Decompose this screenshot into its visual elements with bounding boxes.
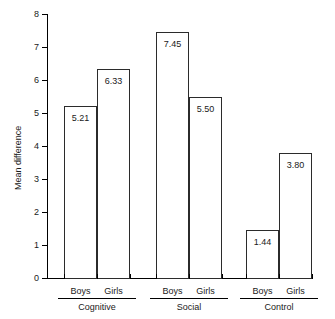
- group-label-cognitive: Cognitive: [58, 303, 136, 312]
- y-tick-8: [42, 14, 47, 15]
- y-tick-label-4: 4: [25, 142, 39, 151]
- bar-social-boys[interactable]: [156, 32, 189, 279]
- y-tick-label-7: 7: [25, 43, 39, 52]
- group-label-social: Social: [150, 303, 228, 312]
- y-axis-line: [47, 14, 48, 279]
- x-tick-cognitive-right: [130, 274, 131, 279]
- bar-cognitive-girls[interactable]: [97, 69, 130, 279]
- x-tick-social-right: [222, 274, 223, 279]
- bar-value-control-boys: 1.44: [246, 238, 279, 247]
- group-rule-cognitive: [58, 298, 136, 299]
- y-tick-5: [42, 113, 47, 114]
- bar-value-cognitive-boys: 5.21: [64, 114, 97, 123]
- x-tick-social-mid: [189, 274, 190, 279]
- group-label-control: Control: [240, 303, 318, 312]
- x-tick-cognitive-mid: [97, 274, 98, 279]
- x-label-social-boys: Boys: [156, 287, 189, 296]
- y-tick-4: [42, 146, 47, 147]
- y-tick-label-2: 2: [25, 208, 39, 217]
- y-tick-0: [42, 278, 47, 279]
- x-tick-control-mid: [279, 274, 280, 279]
- bar-control-girls[interactable]: [279, 153, 312, 279]
- y-axis-label: Mean difference: [14, 126, 23, 190]
- y-tick-6: [42, 80, 47, 81]
- y-tick-3: [42, 179, 47, 180]
- x-tick-control-right: [312, 274, 313, 279]
- y-tick-label-5: 5: [25, 109, 39, 118]
- y-tick-label-0: 0: [25, 274, 39, 283]
- bar-cognitive-boys[interactable]: [64, 106, 97, 279]
- y-tick-label-1: 1: [25, 241, 39, 250]
- y-tick-2: [42, 212, 47, 213]
- x-tick-social-left: [156, 274, 157, 279]
- y-tick-label-6: 6: [25, 76, 39, 85]
- y-tick-1: [42, 245, 47, 246]
- x-tick-control-left: [246, 274, 247, 279]
- x-label-control-girls: Girls: [279, 287, 312, 296]
- x-label-cognitive-girls: Girls: [97, 287, 130, 296]
- group-rule-social: [150, 298, 228, 299]
- group-rule-control: [240, 298, 318, 299]
- bar-value-social-boys: 7.45: [156, 40, 189, 49]
- x-label-social-girls: Girls: [189, 287, 222, 296]
- y-tick-label-8: 8: [25, 10, 39, 19]
- x-label-control-boys: Boys: [246, 287, 279, 296]
- bar-chart: Mean difference 8 7 6 5 4 3 2 1 0 5.21 6…: [0, 0, 335, 319]
- y-tick-label-3: 3: [25, 175, 39, 184]
- x-tick-cognitive-left: [64, 274, 65, 279]
- bar-value-social-girls: 5.50: [189, 105, 222, 114]
- y-tick-7: [42, 47, 47, 48]
- bar-social-girls[interactable]: [189, 97, 222, 280]
- x-label-cognitive-boys: Boys: [64, 287, 97, 296]
- bar-value-cognitive-girls: 6.33: [97, 77, 130, 86]
- bar-value-control-girls: 3.80: [279, 161, 312, 170]
